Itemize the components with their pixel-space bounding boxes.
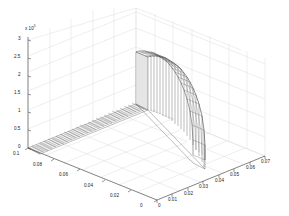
x-tick-label-2: 0.02 [184, 192, 193, 197]
z-tick-label-1: 2.5 [14, 55, 20, 60]
exponent-prefix: x 10 [25, 26, 34, 31]
y-tick-label-0: 0.1 [13, 152, 19, 157]
plot-canvas [0, 0, 289, 216]
floor-grid [28, 104, 265, 200]
y-tick-label-5: 0 [140, 204, 143, 209]
x-tick-label-0: 0 [158, 204, 161, 209]
z-tick-label-2: 2 [18, 73, 21, 78]
x-tick-label-1: 0.01 [168, 198, 177, 203]
y-tick-label-4: 0.02 [110, 194, 119, 199]
y-tick-label-3: 0.04 [84, 184, 93, 189]
z-tick-label-0: 3 [18, 37, 21, 42]
y-tick-label-2: 0.06 [59, 173, 68, 178]
surface-ridge-left-face [136, 52, 148, 110]
x-axis-line [157, 156, 265, 200]
z-tick-label-5: 0.5 [14, 127, 20, 132]
matlab-figure-3d-surface-plot: x 105 3 2.5 2 1.5 1 0.5 0 0.1 0.08 0.06 … [0, 0, 289, 216]
surface-flat-band [28, 103, 148, 154]
z-tick-label-4: 1 [18, 109, 21, 114]
y-tick-label-1: 0.08 [33, 163, 42, 168]
z-tick-label-3: 1.5 [14, 91, 20, 96]
z-axis-exponent-label: x 105 [25, 25, 36, 31]
x-tick-label-4: 0.04 [215, 179, 224, 184]
y-axis-ticks [25, 148, 157, 202]
exponent-power: 5 [34, 24, 36, 28]
z-axis-ticks [28, 40, 31, 149]
x-tick-label-6: 0.06 [246, 166, 255, 171]
y-axis-line [28, 148, 157, 200]
x-tick-label-5: 0.05 [230, 173, 239, 178]
x-tick-label-7: 0.07 [261, 160, 270, 165]
z-tick-label-6: 0 [18, 145, 21, 150]
x-tick-label-3: 0.03 [199, 185, 208, 190]
